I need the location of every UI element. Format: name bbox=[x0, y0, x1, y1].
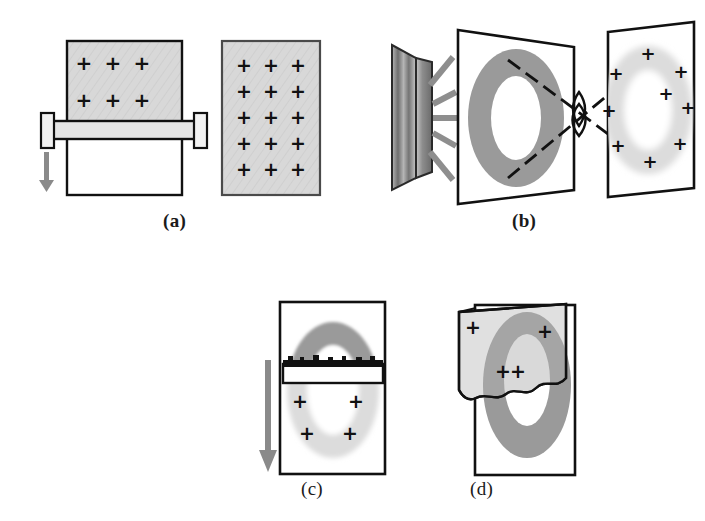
plus-mark: + bbox=[236, 54, 252, 76]
squeegee-cap-right bbox=[194, 113, 207, 148]
panel-b: + + + + + + + + + bbox=[392, 22, 696, 204]
plus-mark: + bbox=[76, 88, 93, 112]
mask-ring-inner-hole bbox=[491, 76, 541, 160]
panel-a: + + + + + + + + + + + + + + + + bbox=[39, 41, 320, 195]
light-source-back-panel bbox=[392, 45, 416, 190]
blade-rough-edge bbox=[283, 360, 383, 367]
plus-mark: + bbox=[290, 54, 306, 76]
plus-mark: + bbox=[290, 80, 306, 102]
plus-mark: + bbox=[290, 132, 306, 154]
plus-mark: + bbox=[342, 422, 358, 444]
light-source-front-panel bbox=[416, 58, 432, 178]
plus-mark: + bbox=[290, 158, 306, 180]
plus-mark: + bbox=[680, 97, 695, 118]
motion-arrow-c bbox=[259, 360, 277, 472]
squeegee-cap-left bbox=[41, 113, 54, 148]
plus-mark: + bbox=[263, 80, 279, 102]
image-ring-inner-hole bbox=[624, 70, 672, 150]
plus-mark: + bbox=[673, 61, 688, 82]
plus-mark: + bbox=[263, 106, 279, 128]
plus-mark: + bbox=[537, 320, 553, 342]
plate-uncoated-lower bbox=[67, 138, 182, 195]
plus-mark: + bbox=[642, 151, 657, 172]
plus-mark: + bbox=[105, 51, 122, 75]
light-ray bbox=[430, 57, 453, 85]
mask-ring-group bbox=[468, 49, 564, 187]
plus-mark: + bbox=[76, 51, 93, 75]
light-rays bbox=[430, 57, 457, 180]
plus-mark: + bbox=[263, 54, 279, 76]
panel-c: + + + + bbox=[259, 302, 385, 474]
plus-mark: + bbox=[672, 133, 687, 154]
plus-mark: + bbox=[299, 422, 315, 444]
panel-label-d: (d) bbox=[470, 478, 493, 500]
light-ray bbox=[430, 152, 453, 180]
plus-mark: + bbox=[105, 88, 122, 112]
plus-mark: + bbox=[640, 43, 655, 64]
plus-mark: + bbox=[134, 51, 151, 75]
plus-mark: + bbox=[236, 158, 252, 180]
light-ray bbox=[433, 133, 456, 146]
panel-d: + + + + bbox=[459, 304, 575, 475]
panel-label-a: (a) bbox=[163, 210, 186, 232]
plus-mark: + bbox=[134, 88, 151, 112]
plus-mark: + bbox=[263, 158, 279, 180]
plus-mark: + bbox=[465, 316, 481, 338]
plus-mark: + bbox=[263, 132, 279, 154]
squeegee-bar bbox=[52, 121, 197, 139]
plus-mark: + bbox=[495, 360, 511, 382]
plus-mark: + bbox=[348, 390, 364, 412]
plus-mark: + bbox=[601, 100, 616, 121]
plus-mark: + bbox=[236, 106, 252, 128]
plus-mark: + bbox=[658, 83, 673, 104]
plus-mark: + bbox=[608, 63, 623, 84]
plus-mark: + bbox=[510, 360, 526, 382]
plus-mark: + bbox=[236, 132, 252, 154]
panel-label-b: (b) bbox=[512, 210, 536, 232]
plus-mark: + bbox=[236, 80, 252, 102]
panel-label-c: (c) bbox=[301, 478, 323, 500]
light-ray bbox=[433, 92, 456, 104]
plus-mark: + bbox=[292, 390, 308, 412]
plus-mark: + bbox=[610, 135, 625, 156]
motion-arrow-a bbox=[39, 152, 54, 192]
plus-mark: + bbox=[290, 106, 306, 128]
charge-marks-right-plate: + + + + + + + + + + + + + + + bbox=[236, 54, 306, 180]
figure-canvas: + + + + + + + + + + + + + + + + bbox=[0, 0, 705, 521]
